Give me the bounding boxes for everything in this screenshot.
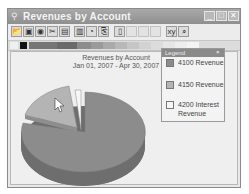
palette-swatch[interactable]: [115, 42, 127, 49]
palette-swatch[interactable]: [127, 42, 139, 49]
blank-3-icon[interactable]: [150, 26, 161, 37]
blank-2-icon[interactable]: [138, 26, 149, 37]
legend-swatch: [166, 59, 174, 67]
minimize-button[interactable]: _: [204, 11, 215, 21]
print-icon[interactable]: ▤: [59, 26, 70, 37]
toolbar: 📂 ▣ ◉ ✂ ▤ ▥ ◔ ⎘ ▯ xy ⌕: [8, 24, 240, 41]
copy-icon[interactable]: ⎘: [98, 26, 109, 37]
palette-swatch[interactable]: [91, 42, 103, 49]
legend-title: Legend: [165, 50, 185, 56]
legend-panel[interactable]: Legend × 4100 Revenue 4150 Revenue 4200 …: [161, 48, 225, 122]
legend-swatch: [166, 81, 174, 89]
blank-1-icon[interactable]: [126, 26, 137, 37]
maximize-button[interactable]: □: [216, 11, 227, 21]
legend-label: 4200 Interest Revenue: [178, 100, 226, 118]
chart-area: Revenues by Account Jan 01, 2007 - Apr 3…: [10, 51, 238, 185]
legend-swatch: [166, 101, 174, 109]
app-icon: ⚲: [11, 11, 21, 21]
save-icon[interactable]: ▣: [23, 26, 34, 37]
title-bar[interactable]: ⚲ Revenues by Account _ □ ✕: [8, 9, 240, 24]
chart-type-icon[interactable]: ▥: [74, 26, 85, 37]
window-title: Revenues by Account: [23, 10, 131, 23]
search-icon[interactable]: ⌕: [178, 26, 189, 37]
page-icon[interactable]: ▯: [114, 26, 125, 37]
legend-label: 4150 Revenue: [178, 80, 226, 89]
palette-swatch[interactable]: [57, 42, 77, 49]
xy-icon[interactable]: xy: [166, 26, 177, 37]
palette-swatch[interactable]: [10, 42, 18, 49]
palette-swatch[interactable]: [139, 42, 151, 49]
open-icon[interactable]: 📂: [11, 26, 22, 37]
legend-header[interactable]: Legend ×: [162, 49, 224, 57]
chart-window: ⚲ Revenues by Account _ □ ✕ 📂 ▣ ◉ ✂ ▤ ▥ …: [7, 8, 241, 188]
legend-label: 4100 Revenue: [178, 58, 226, 67]
close-button[interactable]: ✕: [228, 11, 239, 21]
pie-icon[interactable]: ◔: [86, 26, 97, 37]
palette-swatch[interactable]: [29, 42, 57, 49]
palette-swatch[interactable]: [103, 42, 115, 49]
view-icon[interactable]: ◉: [35, 26, 46, 37]
legend-close-icon[interactable]: ×: [216, 49, 223, 56]
palette-swatch-black[interactable]: [20, 42, 27, 49]
cut-icon[interactable]: ✂: [47, 26, 58, 37]
palette-swatch[interactable]: [77, 42, 91, 49]
